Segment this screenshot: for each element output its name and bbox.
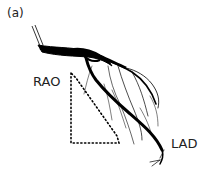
catheter — [32, 25, 43, 46]
coronary-artery-illustration — [0, 0, 215, 178]
vessel-trunk — [38, 45, 126, 68]
lad-vessel — [86, 58, 164, 166]
